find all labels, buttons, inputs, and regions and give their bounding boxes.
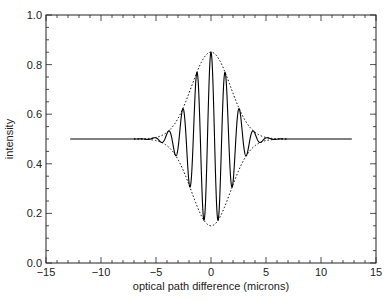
- x-tick-label: −10: [92, 266, 111, 278]
- y-tick-label: 1.0: [27, 9, 42, 21]
- x-axis-label: optical path difference (microns): [133, 280, 289, 292]
- y-tick-label: 0.4: [27, 158, 42, 170]
- y-tick-label: 0.6: [27, 108, 42, 120]
- x-tick-label: 0: [208, 266, 214, 278]
- upper-envelope-line: [134, 52, 288, 139]
- y-axis-label: intensity: [3, 118, 15, 159]
- x-tick-label: 15: [370, 266, 382, 278]
- x-tick-label: 5: [263, 266, 269, 278]
- x-tick-label: 10: [315, 266, 327, 278]
- y-tick-label: 0.2: [27, 207, 42, 219]
- y-tick-label: 0.8: [27, 59, 42, 71]
- y-tick-label: 0.0: [27, 257, 42, 269]
- x-tick-label: −5: [150, 266, 163, 278]
- lower-envelope-line: [134, 139, 288, 226]
- interferogram-chart: −15−10−5051015 0.00.20.40.60.81.0 optica…: [0, 0, 392, 301]
- interferogram-line: [70, 52, 352, 220]
- interferogram-curve: [70, 52, 352, 220]
- y-tick-labels: 0.00.20.40.60.81.0: [27, 9, 42, 269]
- x-tick-labels: −15−10−5051015: [37, 266, 382, 278]
